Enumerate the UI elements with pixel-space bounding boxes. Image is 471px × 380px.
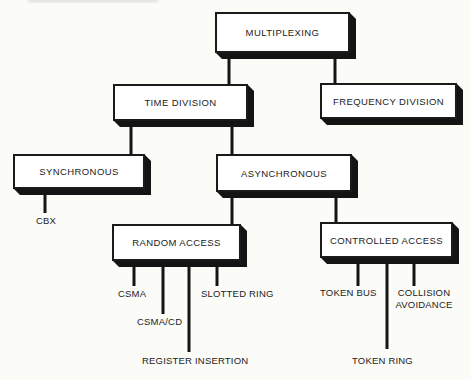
- node-box: SYNCHRONOUS: [13, 154, 145, 189]
- leaf-label-token-ring: TOKEN RING: [352, 355, 413, 366]
- node-label-time-division: TIME DIVISION: [144, 97, 216, 108]
- leaf-label-token-bus: TOKEN BUS: [320, 287, 377, 298]
- node-box: FREQUENCY DIVISION: [320, 83, 457, 119]
- node-label-asynchronous: ASYNCHRONOUS: [241, 168, 327, 179]
- leaf-label-collision-avoidance: COLLISION AVOIDANCE: [392, 287, 456, 311]
- node-label-random-access: RANDOM ACCESS: [132, 237, 221, 248]
- node-box: CONTROLLED ACCESS: [320, 222, 453, 258]
- node-controlled-access: CONTROLLED ACCESS: [320, 222, 453, 258]
- leaf-label-slotted-ring: SLOTTED RING: [201, 288, 274, 299]
- node-frequency-division: FREQUENCY DIVISION: [320, 83, 457, 119]
- leaf-label-csma-cd: CSMA/CD: [137, 316, 182, 327]
- multiplexing-hierarchy-diagram: MULTIPLEXING TIME DIVISION FREQUENCY DIV…: [0, 0, 471, 380]
- node-box: MULTIPLEXING: [215, 12, 350, 53]
- node-label-multiplexing: MULTIPLEXING: [246, 27, 320, 38]
- node-box: ASYNCHRONOUS: [216, 154, 352, 192]
- node-multiplexing: MULTIPLEXING: [215, 12, 350, 53]
- node-time-division: TIME DIVISION: [113, 84, 248, 121]
- node-box: RANDOM ACCESS: [112, 224, 241, 261]
- node-asynchronous: ASYNCHRONOUS: [216, 154, 352, 192]
- leaf-label-csma: CSMA: [118, 288, 146, 299]
- node-box: TIME DIVISION: [113, 84, 248, 121]
- node-label-controlled-access: CONTROLLED ACCESS: [330, 235, 443, 246]
- node-label-frequency-division: FREQUENCY DIVISION: [333, 96, 444, 107]
- node-label-synchronous: SYNCHRONOUS: [39, 166, 118, 177]
- node-random-access: RANDOM ACCESS: [112, 224, 241, 261]
- node-synchronous: SYNCHRONOUS: [13, 154, 145, 189]
- leaf-label-cbx: CBX: [36, 215, 56, 226]
- leaf-label-register-insertion: REGISTER INSERTION: [142, 355, 248, 366]
